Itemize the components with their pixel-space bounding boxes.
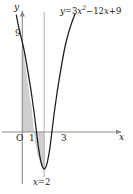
x-tick-label-1: 1 — [29, 134, 35, 143]
curve-equation-label: y=3x2−12x+9 — [60, 5, 121, 15]
vertex-line-equals: = — [38, 177, 45, 187]
y-axis-label: y — [14, 3, 19, 12]
equation-constant: +9 — [109, 6, 122, 16]
parabola-figure: y x 9 O 1 3 y=3x2−12x+9 x=2 — [0, 0, 133, 194]
origin-label: O — [16, 134, 23, 143]
shaded-region-left — [22, 42, 34, 132]
x-tick-label-3: 3 — [61, 134, 67, 143]
x-axis-label: x — [119, 133, 124, 142]
equation-linear-term: −12 — [86, 6, 104, 16]
equation-equals: = — [65, 6, 72, 16]
y-tick-label-9: 9 — [15, 29, 21, 38]
axis-of-symmetry-label: x=2 — [33, 178, 50, 187]
vertex-line-rhs: 2 — [45, 177, 50, 187]
